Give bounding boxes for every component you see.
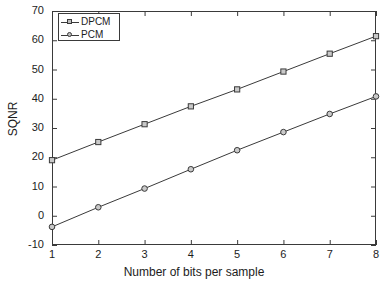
data-point-dpcm-8 [373, 34, 378, 39]
y-tick-label--10: -10 [14, 239, 44, 250]
x-tick-label-3: 3 [135, 249, 155, 260]
data-point-pcm-5 [234, 147, 240, 153]
x-tick-label-7: 7 [320, 249, 340, 260]
data-series-group [49, 34, 379, 230]
chart-container: -10010203040506070 12345678 SQNR Number … [0, 0, 388, 290]
x-axis-title: Number of bits per sample [0, 265, 388, 279]
legend-item-dpcm: DPCM [59, 15, 121, 28]
data-point-pcm-2 [95, 204, 101, 210]
legend-label-dpcm: DPCM [81, 16, 110, 28]
data-point-pcm-8 [373, 94, 379, 100]
data-point-dpcm-7 [327, 51, 332, 56]
plot-svg [0, 0, 388, 290]
data-point-dpcm-3 [142, 122, 147, 127]
data-point-dpcm-2 [96, 139, 101, 144]
data-point-dpcm-6 [281, 69, 286, 74]
x-tick-label-1: 1 [42, 249, 62, 260]
data-point-pcm-7 [327, 111, 333, 117]
data-point-pcm-4 [188, 166, 194, 172]
y-tick-label-20: 20 [14, 151, 44, 162]
legend-circle-marker-icon [59, 29, 81, 41]
y-tick-label-0: 0 [14, 210, 44, 221]
legend-item-pcm: PCM [59, 28, 121, 41]
x-tick-label-2: 2 [88, 249, 108, 260]
data-point-dpcm-5 [235, 87, 240, 92]
legend-label-pcm: PCM [81, 29, 103, 41]
x-tick-label-6: 6 [273, 249, 293, 260]
y-tick-label-10: 10 [14, 181, 44, 192]
x-tick-label-5: 5 [227, 249, 247, 260]
data-point-dpcm-1 [49, 158, 54, 163]
axis-ticks [52, 11, 377, 246]
data-point-pcm-1 [49, 224, 55, 230]
legend-square-marker-icon [59, 16, 81, 28]
x-tick-label-8: 8 [366, 249, 386, 260]
y-tick-label-60: 60 [14, 34, 44, 45]
y-tick-label-50: 50 [14, 64, 44, 75]
data-point-pcm-6 [281, 129, 287, 135]
data-point-pcm-3 [142, 186, 148, 192]
data-point-dpcm-4 [188, 104, 193, 109]
y-axis-title: SQNR [6, 89, 20, 149]
chart-legend: DPCM PCM [58, 13, 120, 41]
x-tick-label-4: 4 [181, 249, 201, 260]
y-tick-label-70: 70 [14, 5, 44, 16]
